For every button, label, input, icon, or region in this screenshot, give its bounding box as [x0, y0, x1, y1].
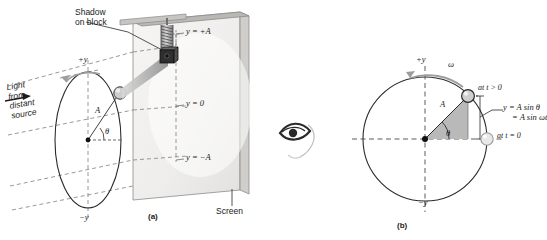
- y-equals-plus-a-label: y = +A: [186, 27, 211, 37]
- panel-a-graphics: [0, 0, 300, 240]
- particle-at-t-equals-0: [481, 133, 493, 145]
- particle-at-t-greater-0: [462, 90, 475, 103]
- shm-equation-label: y = A sin θ = A sin ωt: [503, 103, 547, 122]
- screen-label: Screen: [216, 207, 243, 217]
- shm-equation-line2: = A sin ωt: [503, 113, 547, 123]
- panel-a-plus-y-label: +y: [78, 55, 88, 65]
- panel-a-amplitude-label: A: [95, 106, 100, 116]
- shadow-label-line1: Shadow: [75, 7, 106, 17]
- at-t-equals-zero-label: at t = 0: [497, 132, 521, 141]
- y-equals-zero-label: y = 0: [186, 99, 204, 109]
- rotation-arrow-a: [61, 73, 100, 82]
- y-equals-minus-a-label: y = −A: [186, 153, 211, 163]
- equation-leader-line: [480, 110, 503, 117]
- shm-equation-line1: y = A sin θ: [503, 102, 540, 112]
- at-t-greater-than-zero-label: at t > 0: [478, 84, 502, 93]
- shadow-label-line2: on block: [75, 17, 107, 27]
- panel-b-amplitude-label: A: [440, 100, 445, 110]
- spring: [161, 25, 173, 50]
- origin-dot-b: [422, 136, 428, 142]
- panel-b-caption: (b): [397, 222, 407, 231]
- panel-b-graphics: [300, 0, 533, 240]
- omega-label: ω: [448, 60, 454, 70]
- shadow-on-block-label: Shadow on block: [75, 8, 107, 27]
- panel-b-minus-y-label: −y: [418, 198, 428, 208]
- panel-a-angle-label: θ: [105, 127, 109, 137]
- panel-a-caption: (a): [148, 213, 158, 222]
- oscillating-block: [160, 47, 178, 63]
- panel-b-angle-label: θ: [446, 129, 450, 139]
- panel-a-minus-y-label: −y: [79, 213, 89, 223]
- panel-b-plus-y-label: +y: [416, 55, 426, 65]
